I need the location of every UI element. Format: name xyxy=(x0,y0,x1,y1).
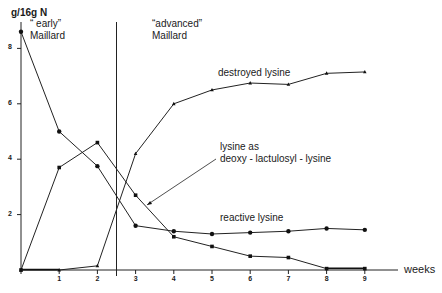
axes xyxy=(17,22,398,274)
destroyed-lysine-label: destroyed lysine xyxy=(218,67,290,79)
marker-circle xyxy=(57,129,61,133)
marker-circle xyxy=(172,229,176,233)
lactulosyl-line2: deoxy - lactulosyl - lysine xyxy=(220,153,331,165)
early-maillard-line1: “ early” xyxy=(30,18,65,30)
x-tick-label: 9 xyxy=(363,275,367,282)
advanced-maillard-label: “advanced” Maillard xyxy=(152,18,202,42)
y-tick-label: 2 xyxy=(2,210,12,217)
x-tick-label: 6 xyxy=(248,275,252,282)
marker-square xyxy=(210,245,214,249)
x-tick-label: 1 xyxy=(57,275,61,282)
marker-circle xyxy=(19,30,23,34)
advanced-maillard-line2: Maillard xyxy=(152,30,202,42)
x-tick-label: 2 xyxy=(95,275,99,282)
x-axis-label: weeks xyxy=(404,263,435,275)
lactulosyl-leader-line xyxy=(147,159,216,205)
y-tick-label: 8 xyxy=(2,43,12,50)
marker-square xyxy=(287,256,291,260)
x-tick-label: 5 xyxy=(210,275,214,282)
marker-square xyxy=(57,166,61,170)
x-tick-label: 8 xyxy=(325,275,329,282)
series-reactive-lysine xyxy=(19,30,367,237)
marker-circle xyxy=(324,226,328,230)
leader-arrowhead xyxy=(147,201,152,205)
marker-circle xyxy=(95,164,99,168)
reactive-lysine-label: reactive lysine xyxy=(220,212,283,224)
marker-circle xyxy=(363,228,367,232)
marker-square xyxy=(134,193,138,197)
marker-square xyxy=(248,254,252,258)
lactulosyl-lysine-label: lysine as deoxy - lactulosyl - lysine xyxy=(220,141,331,165)
x-tick-label: 4 xyxy=(172,275,176,282)
marker-circle xyxy=(286,229,290,233)
annotation-leader-lines xyxy=(147,159,216,205)
x-tick-label: 7 xyxy=(286,275,290,282)
y-tick-label: 4 xyxy=(2,154,12,161)
x-tick-label: 3 xyxy=(134,275,138,282)
series-line xyxy=(21,72,365,270)
advanced-maillard-line1: “advanced” xyxy=(152,18,202,30)
marker-circle xyxy=(248,230,252,234)
marker-circle xyxy=(210,232,214,236)
marker-square xyxy=(172,235,176,239)
early-maillard-label: “ early” Maillard xyxy=(30,18,65,42)
lactulosyl-line1: lysine as xyxy=(220,141,331,153)
marker-circle xyxy=(133,223,137,227)
early-maillard-line2: Maillard xyxy=(30,30,65,42)
marker-square xyxy=(96,141,100,145)
series-line xyxy=(21,32,365,234)
y-tick-label: 6 xyxy=(2,99,12,106)
